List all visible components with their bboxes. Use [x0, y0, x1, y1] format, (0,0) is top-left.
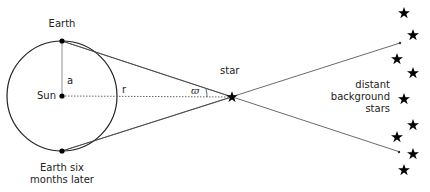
label-parallax-angle: ϖ	[191, 85, 199, 97]
label-bg-line2: background	[320, 91, 390, 103]
label-sun: Sun	[20, 90, 56, 102]
angle-arc	[206, 89, 207, 97]
label-earth-six-months-line2: months later	[22, 174, 102, 186]
label-earth-six-months: Earth six months later	[22, 162, 102, 186]
label-earth-six-months-line1: Earth six	[22, 162, 102, 174]
label-radius-a: a	[67, 75, 73, 87]
arrow-tip-upper	[399, 42, 401, 44]
sightline-upper-edge	[62, 41, 232, 97]
sightline-lower-edge	[62, 97, 232, 151]
label-star: star	[220, 65, 239, 77]
arrow-tip-lower	[398, 151, 400, 153]
earth-top-dot	[59, 38, 64, 43]
background-stars	[391, 7, 419, 175]
label-distant-background-stars: distant background stars	[320, 79, 390, 115]
parallax-diagram: Earth a Sun r ϖ star Earth six months la…	[0, 0, 430, 192]
label-distance-r: r	[122, 84, 126, 96]
sun-dot	[59, 93, 64, 98]
distance-line	[62, 96, 232, 97]
label-bg-line1: distant	[320, 79, 390, 91]
label-earth: Earth	[37, 18, 87, 30]
label-bg-line3: stars	[320, 103, 390, 115]
earth-bottom-dot	[59, 148, 64, 153]
